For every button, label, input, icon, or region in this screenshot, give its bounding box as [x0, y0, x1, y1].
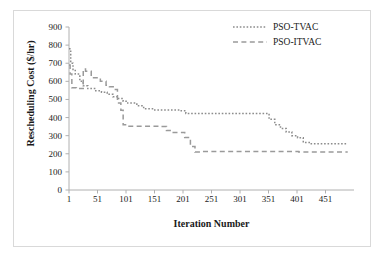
- x-tick-label: 151: [140, 194, 170, 204]
- x-tick-label: 301: [225, 194, 255, 204]
- y-tick-label: 600: [36, 76, 62, 86]
- legend-item-pso-itvac: PSO-ITVAC: [232, 34, 350, 49]
- y-tick-label: 700: [36, 58, 62, 68]
- x-axis-title: Iteration Number: [69, 218, 354, 229]
- y-tick-label: 400: [36, 113, 62, 123]
- y-tick-label: 100: [36, 167, 62, 177]
- chart-figure: Rescheduling Cost ($/hr) Iteration Numbe…: [0, 0, 384, 259]
- legend-label: PSO-ITVAC: [268, 37, 321, 47]
- x-tick-label: 251: [197, 194, 227, 204]
- y-tick-label: 300: [36, 131, 62, 141]
- x-tick-label: 401: [282, 194, 312, 204]
- x-tick-label: 1: [54, 194, 84, 204]
- x-tick-label: 451: [311, 194, 341, 204]
- x-tick-label: 201: [168, 194, 198, 204]
- y-tick-label: 500: [36, 94, 62, 104]
- y-tick-label: 800: [36, 40, 62, 50]
- x-tick-label: 351: [254, 194, 284, 204]
- y-axis-title: Rescheduling Cost ($/hr): [25, 14, 36, 174]
- y-tick-label: 900: [36, 22, 62, 32]
- legend-swatch-icon: [232, 37, 268, 47]
- x-tick-label: 101: [111, 194, 141, 204]
- legend-item-pso-tvac: PSO-TVAC: [232, 19, 350, 34]
- chart-legend: PSO-TVACPSO-ITVAC: [232, 19, 350, 49]
- legend-label: PSO-TVAC: [268, 22, 318, 32]
- x-tick-label: 51: [83, 194, 113, 204]
- y-tick-label: 200: [36, 149, 62, 159]
- legend-swatch-icon: [232, 22, 268, 32]
